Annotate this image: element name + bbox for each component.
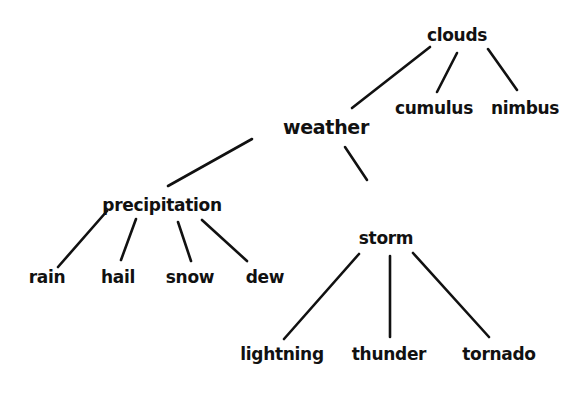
edge-precipitation-rain bbox=[58, 211, 107, 267]
edge-storm-lightning bbox=[284, 254, 359, 339]
node-dew: dew bbox=[246, 267, 285, 287]
edge-storm-tornado bbox=[413, 253, 489, 337]
edge-weather-storm bbox=[345, 147, 367, 180]
node-clouds: clouds bbox=[427, 25, 487, 45]
edge-precipitation-hail bbox=[121, 219, 136, 260]
edge-clouds-nimbus bbox=[488, 49, 517, 90]
node-cumulus: cumulus bbox=[395, 98, 473, 118]
edge-precipitation-snow bbox=[178, 222, 191, 261]
edge-precipitation-dew bbox=[202, 220, 247, 261]
node-precipitation: precipitation bbox=[102, 195, 221, 215]
node-rain: rain bbox=[29, 267, 66, 287]
edge-clouds-cumulus bbox=[437, 53, 457, 92]
node-storm: storm bbox=[359, 228, 414, 248]
node-thunder: thunder bbox=[352, 344, 426, 364]
node-weather: weather bbox=[283, 116, 369, 138]
node-lightning: lightning bbox=[240, 344, 324, 364]
node-snow: snow bbox=[166, 267, 214, 287]
node-hail: hail bbox=[101, 267, 135, 287]
edge-weather-precipitation bbox=[168, 139, 252, 186]
node-nimbus: nimbus bbox=[491, 98, 559, 118]
node-tornado: tornado bbox=[462, 344, 536, 364]
